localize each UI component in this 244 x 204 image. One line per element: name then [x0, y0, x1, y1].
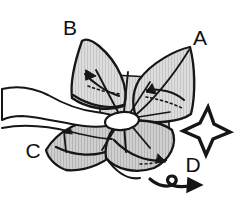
label-c: C: [25, 139, 40, 162]
label-a: A: [193, 26, 207, 49]
origami-diagram-figure: B A C D: [0, 0, 244, 204]
label-b: B: [63, 16, 77, 39]
label-d: D: [185, 153, 200, 176]
origami-diagram-canvas: B A C D: [0, 0, 244, 204]
